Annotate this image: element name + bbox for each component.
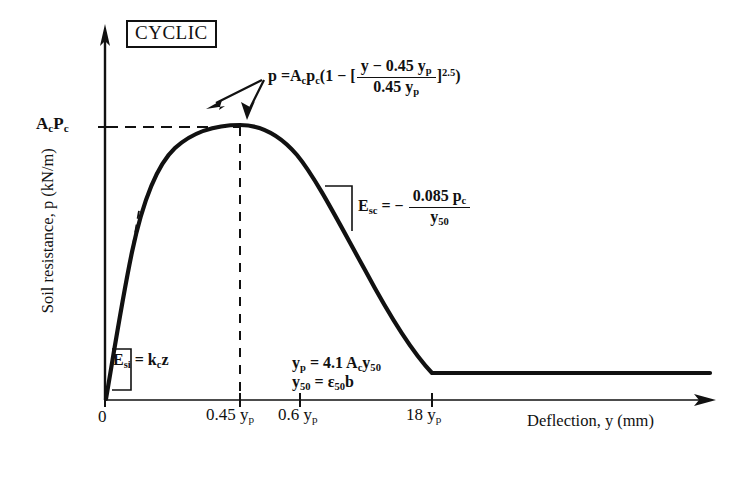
eq-esc-lhs: E [358, 197, 369, 214]
eq-main-open: (1 − [ [320, 67, 356, 84]
equation-arrowhead-down [241, 101, 255, 120]
eq-main-lhs: p = [268, 67, 290, 84]
eq-esc-denominator: y50 [409, 208, 471, 227]
py-curve [106, 125, 710, 399]
x-tick-045yp-sub: p [249, 413, 255, 425]
eq-main-numerator: y − 0.45 yp [357, 58, 436, 78]
eq-esi-lhs-sub: si [124, 359, 131, 370]
equation-yp-definition: yp = 4.1 Acy50 [292, 355, 381, 373]
eq-y50-operator: = ε [315, 373, 335, 390]
eq-main-den-text: 0.45 y [373, 78, 413, 95]
eq-yp-lhs: y [292, 354, 300, 371]
eq-main-num-text: y − 0.45 y [361, 57, 426, 74]
eq-y50-rhs: b [345, 373, 354, 390]
eq-main-fraction: y − 0.45 yp0.45 yp [357, 58, 436, 97]
cyclic-badge: CYCLIC [126, 20, 217, 48]
eq-y50-eps-sub: 50 [335, 381, 346, 392]
y-tick-label-acpc: AcPc [36, 115, 69, 135]
eq-main-den-sub: p [413, 86, 419, 97]
equation-esi: Esi = kcz [113, 352, 169, 370]
eq-yp-y-sub: 50 [370, 362, 381, 373]
eq-esi-rhs: z [161, 351, 168, 368]
eq-yp-lhs-sub: p [300, 362, 306, 373]
eq-main-coef-p: p [306, 67, 315, 84]
eq-esc-den-sub: 50 [438, 216, 449, 227]
x-tick-18yp-main: 18 y [406, 405, 436, 424]
eq-yp-operator: = 4.1 A [310, 354, 358, 371]
eq-main-close-paren: ) [455, 67, 460, 84]
definitions-group: yp = 4.1 Acy50 y50 = ε50b [292, 355, 381, 393]
y-tick-acpc-c2: c [64, 122, 69, 134]
equation-main: p =Acpc(1 − [y − 0.45 yp0.45 yp]2.5) [268, 58, 460, 97]
x-axis-title: Deflection, y (mm) [527, 412, 654, 429]
eq-main-coef-A: A [290, 67, 302, 84]
y-axis-title: Soil resistance, p (kN/m) [39, 121, 56, 341]
eq-esc-numerator: 0.085 pc [409, 188, 471, 208]
equation-y50-definition: y50 = ε50b [292, 374, 381, 392]
eq-esc-num-text: 0.085 p [413, 187, 462, 204]
eq-esc-operator: = − [381, 197, 403, 214]
x-tick-06yp-sub: p [312, 413, 318, 425]
eq-y50-lhs-sub: 50 [300, 381, 311, 392]
eq-esc-num-sub: c [462, 195, 467, 206]
equation-esc: Esc = − 0.085 pcy50 [358, 188, 471, 227]
x-tick-label-045yp: 0.45 yp [206, 406, 254, 426]
eq-esi-operator: = k [135, 351, 157, 368]
eq-esc-lhs-sub: sc [369, 205, 378, 216]
x-tick-label-18yp: 18 yp [406, 406, 441, 426]
x-tick-06yp-main: 0.6 y [278, 405, 312, 424]
eq-main-exponent: 2.5 [442, 67, 455, 78]
x-tick-045yp-main: 0.45 y [206, 405, 249, 424]
equation-arrowhead-left [206, 100, 225, 110]
x-tick-label-06yp: 0.6 yp [278, 406, 318, 426]
eq-y50-lhs: y [292, 373, 300, 390]
eq-main-num-sub: p [426, 65, 432, 76]
y-tick-acpc-P: P [53, 114, 63, 133]
x-tick-label-0: 0 [98, 408, 107, 426]
eq-esc-fraction: 0.085 pcy50 [409, 188, 471, 227]
eq-main-denominator: 0.45 yp [357, 78, 436, 97]
y-tick-acpc-A: A [36, 114, 48, 133]
eq-esi-lhs: E [113, 351, 124, 368]
x-tick-18yp-sub: p [436, 413, 442, 425]
